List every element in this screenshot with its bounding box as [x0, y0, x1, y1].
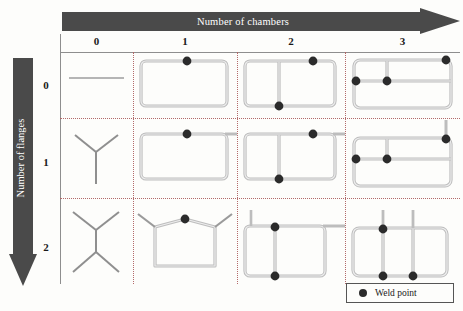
weld-point	[409, 272, 418, 281]
weld-point	[383, 77, 392, 86]
weld-point	[352, 77, 361, 86]
flanges-axis-arrow: Number of flanges	[10, 58, 36, 286]
weld-point	[275, 102, 284, 111]
profile-rect-right-flange	[133, 120, 237, 198]
legend-label: Weld point	[375, 288, 417, 298]
weld-point	[442, 56, 451, 65]
weld-point	[309, 130, 318, 139]
profile-two-chamber-right-flange	[237, 120, 345, 198]
weld-point	[352, 155, 361, 164]
profile-three-chamber	[345, 54, 460, 118]
cell-f0-c1	[133, 54, 237, 118]
flanges-axis-label: Number of flanges	[11, 63, 31, 253]
weld-point	[183, 57, 192, 66]
row-header-0: 0	[38, 78, 54, 92]
weld-point	[183, 130, 192, 139]
row-divider-2	[60, 198, 460, 199]
cell-f0-c0	[60, 54, 133, 118]
weld-point	[181, 215, 190, 224]
cell-f2-c2	[237, 200, 345, 284]
cell-f1-c1	[133, 120, 237, 198]
weld-point	[271, 272, 280, 281]
legend-box: Weld point	[346, 283, 454, 303]
profile-y-junction	[60, 120, 133, 198]
cell-f2-c3	[345, 200, 460, 284]
row-header-2: 2	[38, 240, 54, 254]
row-divider-1	[60, 118, 460, 119]
profile-two-chamber	[237, 54, 345, 118]
chambers-axis-label: Number of chambers	[62, 12, 424, 31]
weld-point	[379, 225, 388, 234]
cell-f1-c2	[237, 120, 345, 198]
weld-point	[271, 223, 280, 232]
profile-three-chamber-top-flange	[345, 120, 460, 198]
chambers-arrow-head-icon	[420, 8, 460, 34]
chambers-axis-arrow: Number of chambers	[62, 10, 460, 33]
column-header-0: 0	[60, 33, 133, 49]
cell-f2-c1	[133, 200, 237, 284]
cell-f1-c0	[60, 120, 133, 198]
profile-three-chamber-two-flanges	[345, 200, 460, 284]
column-header-1: 1	[133, 33, 237, 49]
weld-point-icon	[359, 289, 367, 297]
weld-point	[309, 57, 318, 66]
cell-f0-c2	[237, 54, 345, 118]
flanges-arrow-head-icon	[9, 254, 37, 286]
profile-single-rectangle	[133, 54, 237, 118]
weld-point	[275, 175, 284, 184]
profile-two-chamber-two-flanges	[237, 200, 345, 284]
diagram-canvas: Number of chambers Number of flanges 0 1…	[0, 0, 463, 311]
weld-point	[442, 135, 451, 144]
profile-flat-plate	[60, 54, 133, 118]
cell-f2-c0	[60, 200, 133, 284]
axis-line-horizontal	[60, 52, 460, 53]
weld-point	[383, 155, 392, 164]
column-header-2: 2	[237, 33, 345, 49]
row-header-1: 1	[38, 155, 54, 169]
profile-x-double-junction	[60, 200, 133, 284]
profile-trapezoid-two-flanges	[133, 200, 237, 284]
column-header-3: 3	[345, 33, 460, 49]
cell-f0-c3	[345, 54, 460, 118]
cell-f1-c3	[345, 120, 460, 198]
weld-point	[379, 272, 388, 281]
